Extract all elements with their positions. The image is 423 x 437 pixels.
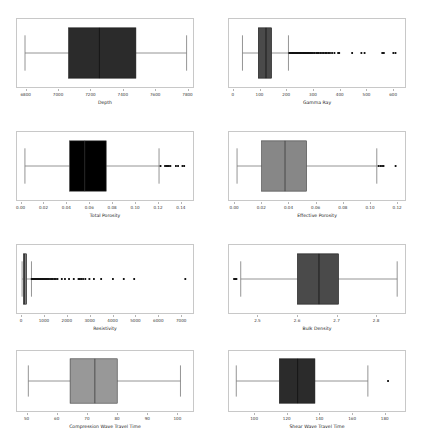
boxplot-depth: [17, 19, 193, 87]
outlier-marker: [395, 52, 397, 54]
tick-mark: [188, 89, 189, 91]
outlier-marker: [383, 52, 385, 54]
tick-label: 400: [336, 92, 344, 98]
outlier-marker: [338, 52, 340, 54]
outlier-marker: [324, 52, 326, 54]
outlier-marker: [160, 165, 162, 167]
tick-label: 90: [145, 416, 150, 422]
tick-label: 500: [363, 92, 371, 98]
xaxis-ticks-resistivity: 01000200030004000500060007000: [16, 315, 194, 325]
outlier-marker: [184, 278, 186, 280]
tick-mark: [286, 89, 287, 91]
axes-frame-gamma-ray: [228, 18, 406, 88]
tick-label: 6000: [153, 318, 163, 324]
outlier-marker: [378, 165, 380, 167]
tick-label: 0.00: [230, 205, 239, 211]
outlier-marker: [395, 165, 397, 167]
tick-label: 2.5: [254, 318, 261, 324]
tick-mark: [370, 202, 371, 204]
tick-label: 0.04: [62, 205, 71, 211]
outlier-marker: [183, 165, 185, 167]
tick-mark: [337, 315, 338, 317]
axes-frame-resistivity: [16, 244, 194, 314]
tick-label: 0.12: [153, 205, 162, 211]
outlier-marker: [182, 165, 184, 167]
xaxis-ticks-effective-porosity: 0.000.020.040.060.080.100.12: [228, 202, 406, 212]
boxplot-effective-porosity: [229, 132, 405, 200]
panel-shear-wave-travel-time: 100120140160180Shear Wave Travel Time: [228, 350, 406, 434]
outlier-marker: [169, 165, 171, 167]
outlier-marker: [61, 278, 63, 280]
tick-mark: [155, 89, 156, 91]
tick-mark: [26, 89, 27, 91]
outlier-marker: [323, 52, 325, 54]
tick-label: 60: [54, 416, 59, 422]
tick-label: 0.14: [176, 205, 185, 211]
boxplot-bulk-density: [229, 245, 405, 313]
outlier-marker: [321, 52, 323, 54]
panel-depth: 680070007200740076007800Depth: [16, 18, 194, 110]
tick-label: 2000: [62, 318, 72, 324]
tick-mark: [288, 202, 289, 204]
outlier-marker: [53, 278, 55, 280]
panel-total-porosity: 0.000.020.040.060.080.100.120.14Total Po…: [16, 131, 194, 223]
tick-mark: [21, 202, 22, 204]
tick-mark: [87, 413, 88, 415]
box-iqr: [70, 141, 107, 191]
box-iqr: [69, 28, 136, 78]
tick-label: 120: [283, 416, 291, 422]
outlier-marker: [84, 278, 86, 280]
tick-label: 5000: [130, 318, 140, 324]
tick-label: 0.04: [284, 205, 293, 211]
outlier-marker: [112, 278, 114, 280]
xaxis-ticks-shear-wave-travel-time: 100120140160180: [228, 413, 406, 423]
tick-mark: [257, 315, 258, 317]
xaxis-ticks-total-porosity: 0.000.020.040.060.080.100.120.14: [16, 202, 194, 212]
xaxis-label-total-porosity: Total Porosity: [16, 212, 194, 219]
tick-mark: [260, 89, 261, 91]
tick-mark: [113, 315, 114, 317]
outlier-marker: [175, 165, 177, 167]
tick-mark: [67, 315, 68, 317]
outlier-marker: [177, 165, 179, 167]
xaxis-label-compression-wave-travel-time: Compression Wave Travel Time: [16, 423, 194, 430]
tick-label: 6800: [20, 92, 30, 98]
tick-mark: [343, 202, 344, 204]
outlier-marker: [334, 52, 336, 54]
box-iqr: [258, 28, 271, 78]
tick-label: 300: [309, 92, 317, 98]
tick-mark: [397, 202, 398, 204]
boxplot-gamma-ray: [229, 19, 405, 87]
tick-label: 0.02: [39, 205, 48, 211]
tick-mark: [57, 413, 58, 415]
outlier-marker: [73, 278, 75, 280]
tick-label: 0.06: [85, 205, 94, 211]
outlier-marker: [320, 52, 322, 54]
outlier-marker: [93, 278, 95, 280]
tick-label: 7000: [53, 92, 63, 98]
outlier-marker: [64, 278, 66, 280]
tick-mark: [58, 89, 59, 91]
panel-bulk-density: 2.52.62.72.8Bulk Density: [228, 244, 406, 336]
panel-resistivity: 01000200030004000500060007000Resistivity: [16, 244, 194, 336]
box-iqr: [70, 359, 117, 403]
axes-frame-bulk-density: [228, 244, 406, 314]
tick-mark: [297, 315, 298, 317]
tick-mark: [340, 89, 341, 91]
tick-label: 0.06: [311, 205, 320, 211]
tick-mark: [158, 202, 159, 204]
boxplot-total-porosity: [17, 132, 193, 200]
panel-gamma-ray: 0100200300400500600Gamma Ray: [228, 18, 406, 110]
outlier-marker: [361, 52, 363, 54]
tick-label: 7200: [85, 92, 95, 98]
tick-mark: [112, 202, 113, 204]
tick-label: 600: [389, 92, 397, 98]
axes-frame-depth: [16, 18, 194, 88]
tick-mark: [44, 315, 45, 317]
outlier-marker: [364, 52, 366, 54]
outlier-marker: [80, 278, 82, 280]
xaxis-label-effective-porosity: Effective Porosity: [228, 212, 406, 219]
tick-label: 0.08: [108, 205, 117, 211]
tick-mark: [376, 315, 377, 317]
axes-frame-shear-wave-travel-time: [228, 350, 406, 412]
